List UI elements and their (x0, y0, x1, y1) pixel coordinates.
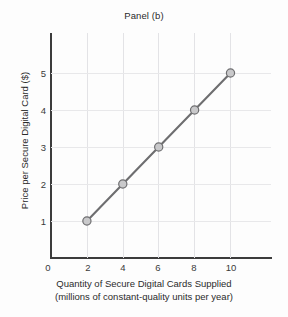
x-axis-label-line2: (millions of constant-quality units per … (0, 290, 288, 303)
data-point (155, 143, 163, 151)
supply-curve-series (51, 33, 271, 258)
plot-area (51, 33, 271, 258)
x-tick-label-4: 4 (120, 262, 125, 273)
x-axis-label: Quantity of Secure Digital Cards Supplie… (0, 277, 288, 303)
x-tick-label-2: 2 (85, 262, 90, 273)
data-point (83, 217, 91, 225)
y-tick-label-4: 4 (30, 105, 46, 116)
chart-title: Panel (b) (0, 10, 288, 21)
chart-figure: Panel (b) Price per Secure Digital Card … (0, 0, 288, 317)
x-tick-label-0: 0 (45, 262, 50, 273)
y-tick-label-2: 2 (30, 179, 46, 190)
y-axis-label: Price per Secure Digital Card ($) (19, 51, 30, 231)
x-tick-label-8: 8 (191, 262, 196, 273)
y-tick-label-1: 1 (30, 216, 46, 227)
data-point (119, 180, 127, 188)
x-tick-label-10: 10 (226, 262, 237, 273)
x-axis-label-line1: Quantity of Secure Digital Cards Supplie… (0, 277, 288, 290)
data-point (191, 106, 199, 114)
y-tick-label-3: 3 (30, 142, 46, 153)
data-point (226, 69, 234, 77)
x-tick-label-6: 6 (155, 262, 160, 273)
y-tick-label-5: 5 (30, 68, 46, 79)
